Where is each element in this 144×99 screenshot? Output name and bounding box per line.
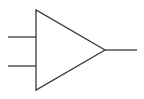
amplifier-triangle-icon: [36, 10, 105, 90]
amplifier-diagram: [0, 0, 144, 99]
